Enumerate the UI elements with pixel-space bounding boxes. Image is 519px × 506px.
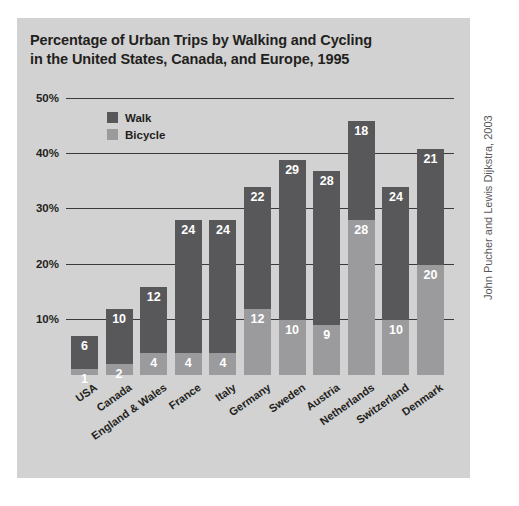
bar-segment-bicycle: 10	[382, 320, 409, 375]
bar-segment-walk: 18	[348, 121, 375, 220]
title-line-1: Percentage of Urban Trips by Walking and…	[30, 31, 430, 50]
bar-group: 210	[106, 309, 133, 375]
y-axis-tick-label: 50%	[36, 92, 59, 104]
chart-figure: Percentage of Urban Trips by Walking and…	[0, 0, 519, 506]
bar-segment-walk: 6	[71, 336, 98, 369]
bar-value-bicycle: 4	[140, 357, 167, 370]
bar-value-walk: 6	[71, 340, 98, 353]
bar-group: 424	[209, 220, 236, 375]
gridline-40: 40%	[66, 153, 454, 154]
bar-segment-bicycle: 9	[313, 325, 340, 375]
bar-value-bicycle: 2	[106, 368, 133, 381]
bar-value-walk: 12	[140, 291, 167, 304]
bar-value-bicycle: 9	[313, 329, 340, 342]
bar-segment-walk: 12	[140, 287, 167, 353]
bar-segment-bicycle: 10	[279, 320, 306, 375]
bar-segment-walk: 28	[313, 171, 340, 326]
bar-segment-bicycle: 1	[71, 369, 98, 375]
bar-group: 1222	[244, 187, 271, 375]
bar-group: 1029	[279, 160, 306, 375]
bar-group: 2021	[417, 149, 444, 375]
plot-area: 10%20%30%40%50% 162104124244241222102992…	[66, 99, 454, 375]
attribution-text: John Pucher and Lewis Dijkstra, 2003	[482, 115, 494, 300]
bar-segment-walk: 24	[209, 220, 236, 352]
bar-segment-bicycle: 4	[209, 353, 236, 375]
bar-value-walk: 29	[279, 164, 306, 177]
bar-segment-walk: 29	[279, 160, 306, 320]
y-axis-tick-label: 30%	[36, 202, 59, 214]
bar-value-walk: 10	[106, 313, 133, 326]
bar-segment-walk: 24	[382, 187, 409, 319]
y-axis-tick-label: 40%	[36, 147, 59, 159]
bar-group: 424	[175, 220, 202, 375]
bar-value-walk: 21	[417, 153, 444, 166]
y-axis-tick-label: 10%	[36, 313, 59, 325]
bar-value-bicycle: 10	[382, 324, 409, 337]
title-line-2: in the United States, Canada, and Europe…	[30, 50, 430, 69]
bar-value-walk: 24	[382, 191, 409, 204]
bar-value-bicycle: 10	[279, 324, 306, 337]
bar-value-bicycle: 28	[348, 224, 375, 237]
bar-segment-bicycle: 2	[106, 364, 133, 375]
bar-segment-bicycle: 12	[244, 309, 271, 375]
bar-segment-bicycle: 20	[417, 265, 444, 375]
bar-segment-bicycle: 4	[140, 353, 167, 375]
bar-segment-walk: 21	[417, 149, 444, 265]
chart-title: Percentage of Urban Trips by Walking and…	[30, 31, 430, 69]
bar-group: 2818	[348, 121, 375, 375]
bar-value-bicycle: 4	[175, 357, 202, 370]
bar-group: 16	[71, 336, 98, 375]
bar-segment-bicycle: 4	[175, 353, 202, 375]
y-axis-tick-label: 20%	[36, 258, 59, 270]
bar-value-bicycle: 4	[209, 357, 236, 370]
bar-value-walk: 28	[313, 175, 340, 188]
bar-value-bicycle: 12	[244, 313, 271, 326]
bar-group: 412	[140, 287, 167, 375]
bar-value-walk: 22	[244, 191, 271, 204]
bar-value-walk: 24	[175, 224, 202, 237]
bar-group: 928	[313, 171, 340, 375]
bar-value-bicycle: 20	[417, 269, 444, 282]
bar-segment-walk: 22	[244, 187, 271, 308]
bar-segment-walk: 10	[106, 309, 133, 364]
bar-value-walk: 24	[209, 224, 236, 237]
gridline-50: 50%	[66, 98, 454, 99]
bar-segment-walk: 24	[175, 220, 202, 352]
bar-group: 1024	[382, 187, 409, 375]
bar-value-walk: 18	[348, 125, 375, 138]
bar-segment-bicycle: 28	[348, 220, 375, 375]
